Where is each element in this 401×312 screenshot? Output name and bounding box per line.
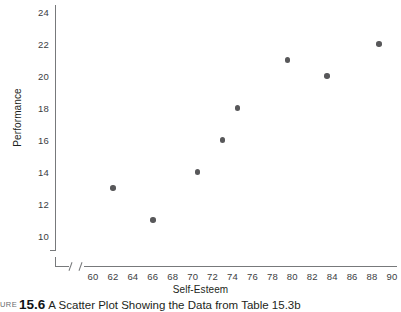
y-axis-line xyxy=(55,5,56,250)
y-tick-label: 20 xyxy=(38,71,49,82)
y-tick-label: 16 xyxy=(38,135,49,146)
y-axis-break-tick xyxy=(50,250,56,251)
x-tick-label: 66 xyxy=(147,271,158,282)
scatter-plot-area: 1012141618202224 60626466687072747678808… xyxy=(0,0,401,292)
x-axis-title: Self-Esteem xyxy=(0,284,401,295)
x-tick-label: 60 xyxy=(88,271,99,282)
x-tick-label: 76 xyxy=(247,271,258,282)
y-axis-title: Performance xyxy=(12,68,23,168)
x-tick-label: 70 xyxy=(187,271,198,282)
x-tick-label: 90 xyxy=(387,271,398,282)
caption-text: A Scatter Plot Showing the Data from Tab… xyxy=(48,299,300,311)
axis-origin-corner xyxy=(55,266,69,267)
y-tick-label: 18 xyxy=(38,103,49,114)
x-tick-label: 64 xyxy=(127,271,138,282)
y-tick-label: 12 xyxy=(38,199,49,210)
figure-caption: URE15.6A Scatter Plot Showing the Data f… xyxy=(0,298,401,312)
x-tick-label: 82 xyxy=(307,271,318,282)
x-tick-label: 74 xyxy=(227,271,238,282)
caption-figure-number: 15.6 xyxy=(19,298,45,312)
data-point xyxy=(150,217,156,223)
y-tick-label: 10 xyxy=(38,231,49,242)
x-tick-label: 84 xyxy=(327,271,338,282)
x-tick-label: 62 xyxy=(107,271,118,282)
x-tick-label: 80 xyxy=(287,271,298,282)
y-axis-stub xyxy=(55,257,56,266)
data-point xyxy=(220,137,226,143)
figure-container: 1012141618202224 60626466687072747678808… xyxy=(0,0,401,312)
x-axis-line xyxy=(84,266,397,267)
data-point xyxy=(235,105,241,111)
x-axis-break-slash-icon xyxy=(78,262,82,271)
data-point xyxy=(324,73,330,79)
data-point xyxy=(376,41,382,47)
y-tick-label: 14 xyxy=(38,167,49,178)
data-point xyxy=(285,57,291,63)
x-tick-label: 68 xyxy=(167,271,178,282)
data-point xyxy=(195,169,201,175)
x-tick-label: 78 xyxy=(267,271,278,282)
x-tick-label: 88 xyxy=(367,271,378,282)
y-tick-label: 22 xyxy=(38,39,49,50)
x-axis-break-slash-icon xyxy=(68,262,72,271)
data-point xyxy=(110,185,116,191)
caption-figure-word: URE xyxy=(0,300,17,309)
x-tick-label: 72 xyxy=(207,271,218,282)
y-tick-label: 24 xyxy=(38,7,49,18)
y-axis-tick-labels: 1012141618202224 xyxy=(0,0,49,292)
x-tick-label: 86 xyxy=(347,271,358,282)
